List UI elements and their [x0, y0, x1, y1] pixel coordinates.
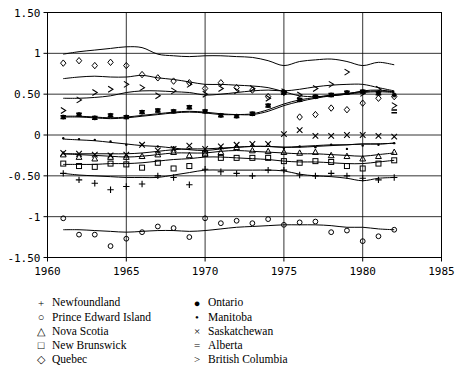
svg-text:0.50: 0.50 — [14, 88, 41, 101]
chart-svg: 196019651970197519801985 1.5010.500-0.50… — [0, 0, 468, 295]
legend-item: ◇ Quebec — [34, 353, 151, 367]
legend-column-right: ● Ontario • Manitoba × Saskatchewan = Al… — [190, 296, 288, 367]
legend-item: = Alberta — [190, 339, 288, 353]
tick-marks — [44, 13, 442, 262]
legend-marker-nova-scotia-icon: △ — [34, 326, 48, 337]
legend-label-manitoba: Manitoba — [208, 312, 252, 324]
legend-label-alberta: Alberta — [208, 340, 242, 352]
legend-item: ○ Prince Edward Island — [34, 310, 151, 324]
legend-marker-british-columbia-icon: > — [190, 354, 204, 365]
legend-label-prince-edward-island: Prince Edward Island — [52, 312, 151, 324]
legend-label-new-brunswick: New Brunswick — [52, 340, 126, 352]
legend-label-british-columbia: British Columbia — [208, 354, 288, 366]
legend-marker-newfoundland-icon: + — [34, 298, 48, 309]
y-axis-tick-labels: 1.5010.500-0.50-1-1.50 — [7, 7, 40, 265]
svg-text:-1.50: -1.50 — [7, 252, 40, 265]
chart-root: 196019651970197519801985 1.5010.500-0.50… — [0, 0, 468, 369]
legend-marker-alberta-icon: = — [190, 340, 204, 351]
legend-marker-prince-edward-island-icon: ○ — [34, 312, 48, 323]
chart-legend: + Newfoundland ○ Prince Edward Island △ … — [0, 296, 468, 369]
legend-label-quebec: Quebec — [52, 354, 87, 366]
legend-label-ontario: Ontario — [208, 297, 243, 309]
legend-label-nova-scotia: Nova Scotia — [52, 326, 109, 338]
legend-item: • Manitoba — [190, 310, 288, 324]
legend-item: △ Nova Scotia — [34, 324, 151, 338]
svg-text:1965: 1965 — [113, 265, 140, 278]
legend-item: + Newfoundland — [34, 296, 151, 310]
series-prince-edward-island — [61, 216, 397, 249]
legend-label-saskatchewan: Saskatchewan — [208, 326, 273, 338]
legend-marker-manitoba-icon: • — [190, 312, 204, 323]
legend-marker-new-brunswick-icon: □ — [34, 340, 48, 351]
svg-text:1970: 1970 — [192, 265, 219, 278]
legend-marker-quebec-icon: ◇ — [34, 354, 48, 365]
legend-marker-ontario-icon: ● — [190, 298, 204, 309]
svg-text:1975: 1975 — [271, 265, 298, 278]
x-axis-tick-labels: 196019651970197519801985 — [34, 265, 455, 278]
legend-item: × Saskatchewan — [190, 324, 288, 338]
svg-text:1.50: 1.50 — [14, 7, 41, 20]
series-newfoundland — [60, 166, 397, 193]
svg-text:-0.50: -0.50 — [7, 170, 40, 183]
legend-label-newfoundland: Newfoundland — [52, 297, 120, 309]
legend-marker-saskatchewan-icon: × — [190, 326, 204, 337]
svg-text:1985: 1985 — [428, 265, 455, 278]
legend-item: > British Columbia — [190, 353, 288, 367]
series-quebec — [61, 57, 397, 120]
legend-item: □ New Brunswick — [34, 339, 151, 353]
series-group — [60, 47, 397, 249]
svg-text:1: 1 — [34, 47, 41, 60]
svg-text:-1: -1 — [27, 211, 40, 224]
plot-area: 196019651970197519801985 1.5010.500-0.50… — [0, 0, 468, 295]
series-nova-scotia — [60, 144, 397, 161]
svg-text:0: 0 — [34, 129, 41, 142]
svg-text:1980: 1980 — [349, 265, 376, 278]
legend-column-left: + Newfoundland ○ Prince Edward Island △ … — [34, 296, 151, 367]
legend-item: ● Ontario — [190, 296, 288, 310]
svg-text:1960: 1960 — [34, 265, 61, 278]
